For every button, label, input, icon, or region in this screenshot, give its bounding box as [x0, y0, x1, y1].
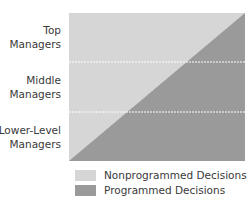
label-line: Middle: [0, 73, 61, 87]
label-line: Top: [0, 23, 61, 37]
legend-label: Programmed Decisions: [104, 183, 225, 197]
label-line: Lower-Level: [0, 123, 61, 137]
label-line: Managers: [0, 37, 61, 51]
label-top-managers: Top Managers: [0, 23, 61, 51]
chart-graphic: [69, 13, 245, 161]
legend-label: Nonprogrammed Decisions: [104, 168, 247, 182]
legend-swatch-nonprogrammed: [75, 170, 96, 181]
label-line: Managers: [0, 87, 61, 101]
legend-swatch-programmed: [75, 185, 96, 196]
label-lower-level-managers: Lower-Level Managers: [0, 123, 61, 151]
label-line: Managers: [0, 137, 61, 151]
label-middle-managers: Middle Managers: [0, 73, 61, 101]
decision-chart: [69, 13, 245, 161]
